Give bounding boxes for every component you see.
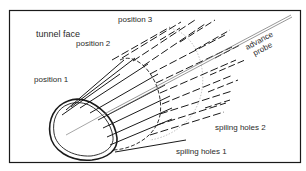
tunnel-ring <box>50 99 117 160</box>
spiling-holes-far <box>160 20 245 108</box>
label-spiling-holes-2: spiling holes 2 <box>215 123 266 132</box>
label-tunnel-face: tunnel face <box>36 29 80 39</box>
label-position-3: position 3 <box>118 15 153 24</box>
label-position-2: position 2 <box>76 39 111 48</box>
tunnel-spiling-diagram: tunnel face position 1 position 2 positi… <box>0 0 306 171</box>
label-position-1: position 1 <box>34 75 69 84</box>
label-spiling-holes-1: spiling holes 1 <box>176 147 227 156</box>
spiling-holes-1 <box>62 58 186 152</box>
